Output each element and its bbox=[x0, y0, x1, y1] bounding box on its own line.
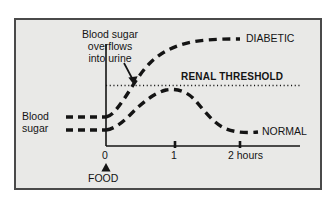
x-tick-label-1: 1 bbox=[171, 150, 177, 162]
chart-graphics bbox=[0, 0, 336, 205]
y-axis-label: Blood sugar bbox=[22, 110, 68, 135]
x-tick-label-0: 0 bbox=[102, 150, 108, 162]
figure-canvas: Blood sugar overflows into urine RENAL T… bbox=[0, 0, 336, 205]
series-label-diabetic: DIABETIC bbox=[246, 33, 294, 45]
food-label: FOOD bbox=[88, 173, 118, 185]
renal-threshold-label: RENAL THRESHOLD bbox=[181, 71, 283, 82]
overflow-annotation-label: Blood sugar overflows into urine bbox=[61, 29, 159, 64]
series-label-normal: NORMAL bbox=[262, 126, 307, 138]
normal-curve bbox=[106, 89, 258, 132]
food-arrow-icon bbox=[101, 163, 110, 172]
x-tick-label-2: 2 hours bbox=[228, 150, 263, 162]
